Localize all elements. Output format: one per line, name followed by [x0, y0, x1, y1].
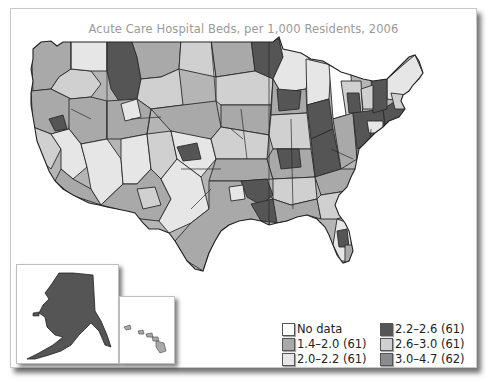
hawaii-shape	[120, 297, 174, 363]
legend-label: 1.4–2.0 (61)	[297, 337, 367, 351]
legend-swatch-2-6-3-0	[380, 338, 393, 351]
legend-label: 2.2–2.6 (61)	[395, 322, 465, 336]
legend-swatch-1-4-2-0	[282, 338, 295, 351]
legend-swatch-2-0-2-2	[282, 353, 295, 366]
legend-item-3-0-4-7: 3.0–4.7 (62)	[380, 352, 472, 366]
legend-item-2-2-2-6: 2.2–2.6 (61)	[380, 322, 472, 336]
legend-swatch-no-data	[282, 323, 295, 336]
legend-item-2-0-2-2: 2.0–2.2 (61)	[282, 352, 380, 366]
legend-swatch-2-2-2-6	[380, 323, 393, 336]
legend-item-no-data: No data	[282, 322, 380, 336]
legend-label: 2.0–2.2 (61)	[297, 352, 367, 366]
alaska-inset	[16, 264, 119, 364]
legend-swatch-3-0-4-7	[380, 353, 393, 366]
legend-label: 2.6–3.0 (61)	[395, 337, 465, 351]
legend-item-1-4-2-0: 1.4–2.0 (61)	[282, 337, 380, 351]
legend: No data 2.2–2.6 (61) 1.4–2.0 (61) 2.6–3.…	[282, 322, 472, 366]
hawaii-inset	[119, 296, 175, 364]
map-frame: Acute Care Hospital Beds, per 1,000 Resi…	[10, 8, 477, 368]
legend-item-2-6-3-0: 2.6–3.0 (61)	[380, 337, 472, 351]
alaska-shape	[17, 265, 118, 363]
legend-label: No data	[297, 322, 342, 336]
legend-label: 3.0–4.7 (62)	[395, 352, 465, 366]
